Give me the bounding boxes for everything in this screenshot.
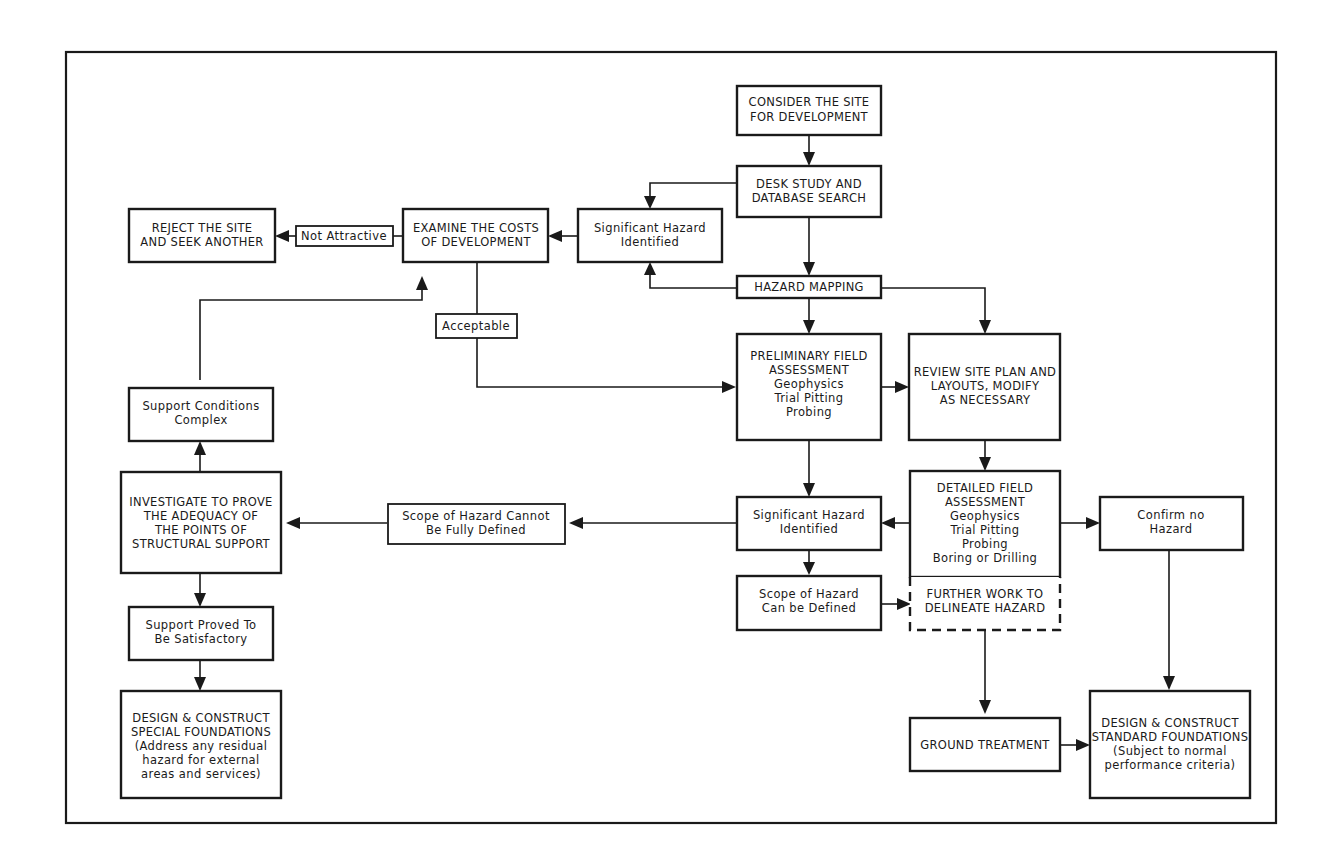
arrow-left-icon <box>569 517 583 529</box>
node-scope-can-be-defined: Scope of Hazard Can be Defined <box>737 576 881 630</box>
svg-text:Probing: Probing <box>962 537 1008 551</box>
arrow-left-icon <box>275 230 289 242</box>
arrow-right-icon <box>1076 739 1090 751</box>
svg-text:DATABASE SEARCH: DATABASE SEARCH <box>752 191 867 205</box>
node-scope-cannot-be-defined: Scope of Hazard Cannot Be Fully Defined <box>388 504 565 544</box>
svg-text:Confirm no: Confirm no <box>1137 508 1204 522</box>
svg-text:DESIGN & CONSTRUCT: DESIGN & CONSTRUCT <box>132 711 270 725</box>
svg-text:Be Fully Defined: Be Fully Defined <box>426 523 526 537</box>
arrow-down-icon <box>803 262 815 276</box>
svg-text:areas and services): areas and services) <box>141 767 261 781</box>
arrow-down-icon <box>1163 676 1175 690</box>
arrow-right-icon <box>1086 517 1100 529</box>
svg-text:DETAILED FIELD: DETAILED FIELD <box>937 481 1033 495</box>
svg-text:Support Proved To: Support Proved To <box>145 618 256 632</box>
svg-text:REVIEW SITE PLAN AND: REVIEW SITE PLAN AND <box>914 365 1057 379</box>
svg-text:hazard for external: hazard for external <box>142 753 259 767</box>
arrow-down-icon <box>803 152 815 166</box>
svg-text:ASSESSMENT: ASSESSMENT <box>769 363 850 377</box>
node-examine-costs: EXAMINE THE COSTS OF DEVELOPMENT <box>403 209 548 262</box>
svg-text:Can be Defined: Can be Defined <box>762 601 857 615</box>
arrow-down-icon <box>803 562 815 575</box>
svg-text:(Subject to normal: (Subject to normal <box>1113 744 1227 758</box>
svg-text:Identified: Identified <box>780 522 838 536</box>
arrow-up-icon <box>194 441 206 455</box>
svg-text:performance criteria): performance criteria) <box>1105 758 1236 772</box>
svg-text:Significant Hazard: Significant Hazard <box>753 508 865 522</box>
svg-text:INVESTIGATE TO PROVE: INVESTIGATE TO PROVE <box>129 495 272 509</box>
node-detailed-field-assessment: DETAILED FIELD ASSESSMENT Geophysics Tri… <box>910 471 1060 577</box>
node-standard-foundations: DESIGN & CONSTRUCT STANDARD FOUNDATIONS … <box>1090 691 1250 798</box>
svg-text:DESK STUDY AND: DESK STUDY AND <box>756 177 862 191</box>
arrow-left-icon <box>286 517 300 529</box>
node-not-attractive: Not Attractive <box>296 226 393 246</box>
svg-text:ASSESSMENT: ASSESSMENT <box>945 495 1026 509</box>
svg-text:STRUCTURAL SUPPORT: STRUCTURAL SUPPORT <box>132 537 271 551</box>
svg-text:FURTHER WORK TO: FURTHER WORK TO <box>927 587 1044 601</box>
svg-text:Identified: Identified <box>621 235 679 249</box>
svg-text:Geophysics: Geophysics <box>950 509 1020 523</box>
svg-text:THE ADEQUACY OF: THE ADEQUACY OF <box>143 509 258 523</box>
arrow-down-icon <box>803 320 815 334</box>
svg-text:Probing: Probing <box>786 405 832 419</box>
svg-text:Acceptable: Acceptable <box>442 319 510 333</box>
arrow-down-icon <box>803 483 815 497</box>
arrow-down-icon <box>979 457 991 471</box>
node-review-site-plan: REVIEW SITE PLAN AND LAYOUTS, MODIFY AS … <box>909 334 1060 440</box>
svg-text:GROUND TREATMENT: GROUND TREATMENT <box>920 738 1050 752</box>
svg-text:Trial Pitting: Trial Pitting <box>949 523 1019 537</box>
svg-text:(Address any residual: (Address any residual <box>135 739 268 753</box>
svg-text:Hazard: Hazard <box>1149 522 1192 536</box>
arrow-down-icon <box>644 196 656 209</box>
arrow-down-icon <box>194 593 206 607</box>
svg-text:Geophysics: Geophysics <box>774 377 844 391</box>
hazard-assessment-flowchart: CONSIDER THE SITE FOR DEVELOPMENT DESK S… <box>0 0 1338 861</box>
svg-text:Boring or Drilling: Boring or Drilling <box>933 551 1038 565</box>
svg-text:Scope of Hazard Cannot: Scope of Hazard Cannot <box>402 509 550 523</box>
arrow-down-icon <box>979 700 991 714</box>
svg-text:REJECT THE SITE: REJECT THE SITE <box>152 221 253 235</box>
node-special-foundations: DESIGN & CONSTRUCT SPECIAL FOUNDATIONS (… <box>121 691 281 798</box>
svg-text:EXAMINE THE COSTS: EXAMINE THE COSTS <box>413 221 539 235</box>
node-investigate-support: INVESTIGATE TO PROVE THE ADEQUACY OF THE… <box>121 472 281 573</box>
arrow-right-icon <box>895 381 909 393</box>
arrow-right-icon <box>722 381 736 393</box>
svg-text:DESIGN & CONSTRUCT: DESIGN & CONSTRUCT <box>1101 716 1239 730</box>
svg-text:STANDARD FOUNDATIONS: STANDARD FOUNDATIONS <box>1092 730 1249 744</box>
node-significant-hazard-top: Significant Hazard Identified <box>578 209 722 262</box>
svg-text:AS NECESSARY: AS NECESSARY <box>940 393 1031 407</box>
svg-text:Complex: Complex <box>174 413 227 427</box>
svg-text:SPECIAL FOUNDATIONS: SPECIAL FOUNDATIONS <box>131 725 271 739</box>
svg-text:DELINEATE HAZARD: DELINEATE HAZARD <box>925 601 1046 615</box>
node-support-proved: Support Proved To Be Satisfactory <box>129 607 273 660</box>
svg-text:OF DEVELOPMENT: OF DEVELOPMENT <box>421 235 531 249</box>
svg-text:Support Conditions: Support Conditions <box>142 399 259 413</box>
arrow-left-icon <box>548 230 562 242</box>
svg-text:Significant Hazard: Significant Hazard <box>594 221 706 235</box>
svg-text:PRELIMINARY FIELD: PRELIMINARY FIELD <box>750 349 867 363</box>
svg-text:Trial Pitting: Trial Pitting <box>773 391 843 405</box>
svg-text:LAYOUTS, MODIFY: LAYOUTS, MODIFY <box>931 379 1040 393</box>
arrow-down-icon <box>979 320 991 334</box>
arrow-left-icon <box>881 517 895 529</box>
svg-text:FOR DEVELOPMENT: FOR DEVELOPMENT <box>750 110 869 124</box>
node-confirm-no-hazard: Confirm no Hazard <box>1100 497 1243 550</box>
arrow-up-icon <box>644 262 656 275</box>
node-reject-site: REJECT THE SITE AND SEEK ANOTHER <box>129 209 275 262</box>
node-desk-study: DESK STUDY AND DATABASE SEARCH <box>737 166 881 217</box>
svg-text:Scope of Hazard: Scope of Hazard <box>759 587 859 601</box>
node-ground-treatment: GROUND TREATMENT <box>910 718 1060 771</box>
node-significant-hazard-mid: Significant Hazard Identified <box>737 497 881 550</box>
node-acceptable: Acceptable <box>436 314 517 338</box>
svg-text:HAZARD MAPPING: HAZARD MAPPING <box>754 280 864 294</box>
arrow-up-icon <box>416 276 428 290</box>
node-preliminary-field-assessment: PRELIMINARY FIELD ASSESSMENT Geophysics … <box>737 334 881 440</box>
svg-text:Be Satisfactory: Be Satisfactory <box>154 632 247 646</box>
node-further-work: FURTHER WORK TO DELINEATE HAZARD <box>910 577 1060 630</box>
svg-text:AND SEEK ANOTHER: AND SEEK ANOTHER <box>140 235 263 249</box>
arrow-down-icon <box>194 677 206 691</box>
node-hazard-mapping: HAZARD MAPPING <box>737 276 881 298</box>
svg-text:Not Attractive: Not Attractive <box>301 229 387 243</box>
svg-text:THE POINTS OF: THE POINTS OF <box>154 523 247 537</box>
node-consider-site: CONSIDER THE SITE FOR DEVELOPMENT <box>737 86 881 135</box>
